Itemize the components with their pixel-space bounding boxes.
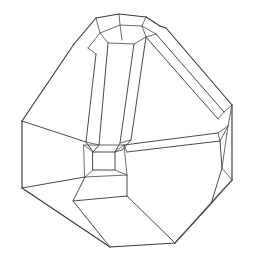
- polyhedron-wireframe-drawing: [0, 0, 253, 263]
- figure-root: [0, 0, 253, 263]
- canvas-background: [0, 0, 253, 263]
